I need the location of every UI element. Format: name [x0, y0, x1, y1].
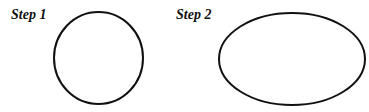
- step-1-circle: [54, 12, 143, 104]
- diagram-canvas: Step 1 Step 2: [0, 0, 369, 112]
- shapes-layer: [0, 0, 369, 112]
- step-2-ellipse: [219, 13, 365, 105]
